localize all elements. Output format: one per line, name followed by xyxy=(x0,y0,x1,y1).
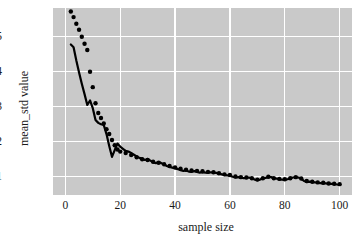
solid-line-series xyxy=(71,44,340,184)
y-tick-label: 0.3 xyxy=(0,101,2,113)
data-point-marker xyxy=(266,175,270,179)
data-point-marker xyxy=(244,175,248,179)
data-point-marker xyxy=(228,173,232,177)
x-tick-label: 20 xyxy=(114,200,126,212)
x-tick-label: 0 xyxy=(62,200,68,212)
data-point-marker xyxy=(233,174,237,178)
data-point-marker xyxy=(134,155,138,159)
dotted-marker-series xyxy=(69,9,342,186)
data-point-marker xyxy=(310,179,314,183)
data-point-marker xyxy=(283,177,287,181)
data-point-marker xyxy=(82,42,86,46)
data-point-marker xyxy=(77,28,81,32)
data-point-marker xyxy=(321,181,325,185)
data-point-marker xyxy=(113,143,117,147)
data-point-marker xyxy=(217,171,221,175)
data-point-marker xyxy=(118,149,122,153)
data-point-marker xyxy=(145,158,149,162)
y-tick-label: 0.4 xyxy=(0,66,2,78)
data-point-marker xyxy=(222,172,226,176)
data-point-marker xyxy=(162,162,166,166)
data-point-marker xyxy=(206,170,210,174)
data-point-marker xyxy=(107,132,111,136)
data-point-marker xyxy=(110,138,114,142)
x-axis-label-text: sample size xyxy=(178,220,234,234)
x-tick-label: 60 xyxy=(224,200,236,212)
data-point-marker xyxy=(326,181,330,185)
data-point-marker xyxy=(96,111,100,115)
x-axis-label: sample size xyxy=(0,220,363,235)
data-point-marker xyxy=(156,161,160,165)
data-point-marker xyxy=(129,153,133,157)
data-point-marker xyxy=(178,167,182,171)
data-point-marker xyxy=(71,15,75,19)
y-tick-label: 0.1 xyxy=(0,171,2,183)
data-point-marker xyxy=(167,164,171,168)
y-tick-label: 0.2 xyxy=(0,136,2,148)
data-point-marker xyxy=(140,157,144,161)
y-axis-label: mean_std value xyxy=(17,29,32,189)
data-point-marker xyxy=(173,165,177,169)
data-point-marker xyxy=(211,170,215,174)
data-point-marker xyxy=(305,179,309,183)
data-point-marker xyxy=(294,175,298,179)
data-point-marker xyxy=(277,177,281,181)
data-point-marker xyxy=(74,22,78,26)
data-point-marker xyxy=(337,182,341,186)
data-point-marker xyxy=(91,85,95,89)
data-point-marker xyxy=(93,101,97,105)
data-point-marker xyxy=(239,175,243,179)
chart-data-layer xyxy=(53,8,352,195)
data-point-marker xyxy=(123,151,127,155)
data-point-marker xyxy=(255,177,259,181)
data-point-marker xyxy=(85,48,89,52)
data-point-marker xyxy=(316,180,320,184)
data-point-marker xyxy=(261,176,265,180)
data-point-marker xyxy=(299,176,303,180)
data-point-marker xyxy=(288,176,292,180)
data-point-marker xyxy=(99,116,103,120)
data-point-marker xyxy=(195,169,199,173)
data-point-marker xyxy=(69,9,73,13)
y-tick-label: 0.5 xyxy=(0,31,2,43)
data-point-marker xyxy=(151,160,155,164)
data-point-marker xyxy=(102,121,106,125)
x-tick-label: 100 xyxy=(331,200,348,212)
chart-figure: 0.10.20.30.40.5 020406080100 sample size… xyxy=(0,0,363,244)
data-point-marker xyxy=(88,70,92,74)
plot-area xyxy=(53,8,352,195)
data-point-marker xyxy=(272,176,276,180)
data-point-marker xyxy=(104,127,108,131)
data-point-marker xyxy=(184,168,188,172)
x-tick-label: 40 xyxy=(169,200,181,212)
data-point-marker xyxy=(250,176,254,180)
data-point-marker xyxy=(80,35,84,39)
data-point-marker xyxy=(200,169,204,173)
data-point-marker xyxy=(189,168,193,172)
x-tick-label: 80 xyxy=(279,200,291,212)
data-point-marker xyxy=(332,182,336,186)
